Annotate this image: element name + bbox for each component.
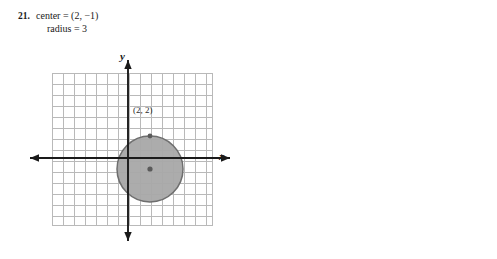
problem-21: 21. center = (2, −1) radius = 3 [0,0,249,259]
point-label-2-2: (2, 2) [133,105,153,115]
y-axis-arrow-up-21 [124,60,131,69]
problem-22: 22. [249,0,497,259]
graph-21-plot [52,73,212,225]
problem-21-graph [52,73,212,225]
problem-21-number: 21. [18,11,30,21]
center-point-dot-21 [147,166,152,171]
x-axis-arrow-left-21 [30,154,39,161]
y-axis-label-21: y [120,50,125,62]
y-axis-arrow-down-21 [124,232,131,241]
worksheet-page: 21. center = (2, −1) radius = 3 [0,0,497,259]
problem-21-given: center = (2, −1) radius = 3 [36,10,98,35]
problem-21-center-line: center = (2, −1) [36,10,98,23]
problem-21-radius-line: radius = 3 [36,23,98,36]
point-dot-2-2 [148,134,153,139]
x-axis-label-21: x [219,150,225,162]
